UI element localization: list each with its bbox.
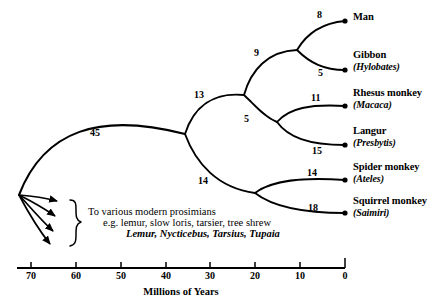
branch-number-spider-monkey: 14 <box>307 168 317 178</box>
prosimian-note: To various modern prosimians e.g. lemur,… <box>88 206 338 239</box>
axis-tick-label-40: 40 <box>154 271 178 281</box>
branch-langur-15 <box>277 122 345 145</box>
taxon-label-rhesus-monkey: Rhesus monkey <box>353 88 422 99</box>
prosimian-brace <box>70 200 81 246</box>
tip-dot-langur <box>342 142 347 147</box>
prosimian-note-line-2: e.g. lemur, slow loris, tarsier, tree sh… <box>88 217 338 228</box>
axis-title: Millions of Years <box>101 287 261 298</box>
taxon-label-langur: Langur <box>353 126 386 137</box>
branch-number-man: 8 <box>317 10 322 20</box>
tree-drawing <box>0 0 433 307</box>
branch-catarrhine-13 <box>185 95 244 134</box>
branch-number-catarrhine: 13 <box>194 90 204 100</box>
branch-root-45 <box>19 125 185 195</box>
tip-dot-spider <box>342 177 347 182</box>
axis-tick-label-30: 30 <box>198 271 222 281</box>
tip-dot-rhesus <box>342 103 347 108</box>
branch-hominoid-9 <box>244 50 297 95</box>
tip-dot-squirrel <box>342 210 347 215</box>
axis-tick-label-10: 10 <box>288 271 312 281</box>
taxon-latin-spider-monkey: (Ateles) <box>353 174 384 184</box>
prosimian-note-line-3: Lemur, Nycticebus, Tarsius, Tupaia <box>88 228 338 239</box>
branch-number-root: 45 <box>90 128 100 138</box>
branch-number-cercopithecoid: 5 <box>244 114 249 124</box>
axis-tick-label-20: 20 <box>243 271 267 281</box>
branch-number-hominoid: 9 <box>254 48 259 58</box>
taxon-label-gibbon: Gibbon <box>353 50 386 61</box>
taxon-label-man: Man <box>353 12 374 23</box>
prosimian-note-line-1: To various modern prosimians <box>88 206 338 217</box>
branch-man-8 <box>297 21 345 50</box>
tip-dot-man <box>342 18 347 23</box>
branch-number-rhesus-monkey: 11 <box>311 93 320 103</box>
taxon-label-spider-monkey: Spider monkey <box>353 162 419 173</box>
taxon-latin-langur: (Presbytis) <box>353 138 396 148</box>
taxon-latin-rhesus-monkey: (Macaca) <box>353 100 392 110</box>
axis-tick-label-50: 50 <box>109 271 133 281</box>
tip-dot-gibbon <box>342 67 347 72</box>
axis-tick-label-60: 60 <box>64 271 88 281</box>
taxon-label-squirrel-monkey: Squirrel monkey <box>353 196 427 207</box>
taxon-latin-gibbon: (Hylobates) <box>353 62 400 72</box>
branch-number-gibbon: 5 <box>318 68 323 78</box>
axis-tick-label-70: 70 <box>19 271 43 281</box>
taxon-latin-squirrel-monkey: (Saimiri) <box>353 208 389 218</box>
branch-spider-14 <box>255 179 345 193</box>
axis-tick-label-0: 0 <box>333 271 357 281</box>
branch-number-langur: 15 <box>312 146 322 156</box>
branch-platyrrhine-14 <box>185 134 255 193</box>
phylogenetic-tree-figure: Man Gibbon (Hylobates) Rhesus monkey (Ma… <box>0 0 433 307</box>
branch-number-platyrrhine: 14 <box>198 176 208 186</box>
branch-rhesus-11 <box>277 106 345 122</box>
